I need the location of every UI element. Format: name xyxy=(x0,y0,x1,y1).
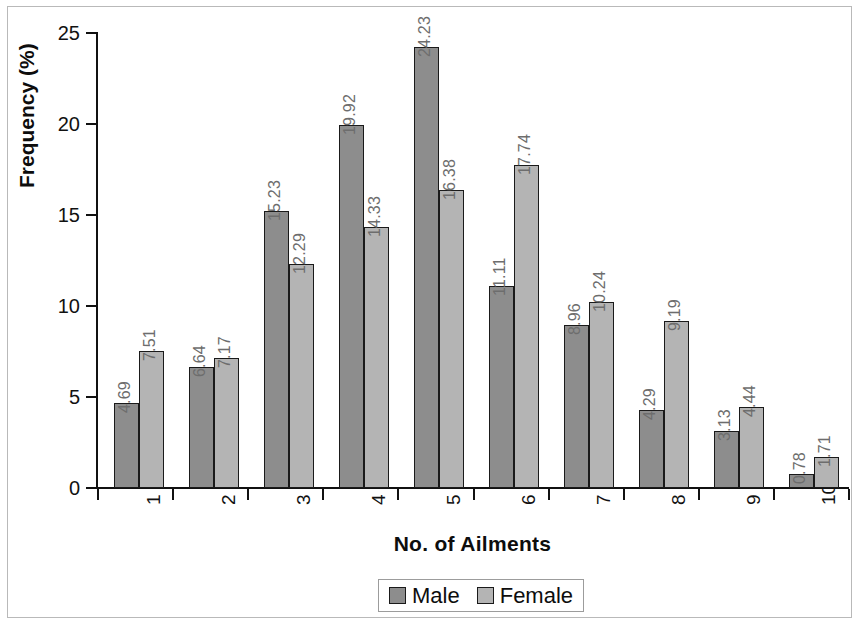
x-axis-tick xyxy=(548,489,550,500)
bar-female-1 xyxy=(139,351,164,488)
bar-value-label: 12.29 xyxy=(292,233,308,274)
bar-male-3 xyxy=(264,211,289,488)
x-axis-tick-label: 3 xyxy=(294,494,313,505)
x-axis-tick-label: 7 xyxy=(594,494,613,505)
bar-value-label: 7.51 xyxy=(142,329,158,361)
legend-swatch-male xyxy=(389,587,406,604)
x-axis-tick xyxy=(473,489,475,500)
bar-value-label: 8.96 xyxy=(567,303,583,335)
y-axis-tick-label: 0 xyxy=(20,478,80,498)
plot-area: 4.697.516.647.1715.2312.2919.9214.3324.2… xyxy=(97,33,848,488)
bar-female-9 xyxy=(739,407,764,488)
x-axis-tick xyxy=(97,489,99,500)
x-axis-tick xyxy=(172,489,174,500)
legend-label: Male xyxy=(412,585,460,607)
y-axis-tick-label: 5 xyxy=(20,387,80,407)
bar-value-label: 1.71 xyxy=(817,435,833,467)
y-axis-tick xyxy=(86,487,97,489)
bar-value-label: 3.13 xyxy=(717,409,733,441)
bar-value-label: 16.38 xyxy=(442,159,458,200)
bar-value-label: 14.33 xyxy=(367,196,383,237)
bar-value-label: 15.23 xyxy=(267,180,283,221)
bar-value-label: 19.92 xyxy=(342,94,358,135)
y-axis-tick xyxy=(86,123,97,125)
bar-male-5 xyxy=(414,47,439,488)
bar-value-label: 17.74 xyxy=(517,134,533,175)
bar-male-7 xyxy=(564,325,589,488)
y-axis-tick xyxy=(86,32,97,34)
bar-female-4 xyxy=(364,227,389,488)
bar-chart-figure: Frequency (%) No. of Ailments 0510152025… xyxy=(0,0,859,626)
x-axis-tick xyxy=(698,489,700,500)
y-axis-tick-label: 10 xyxy=(20,296,80,316)
bar-male-4 xyxy=(339,125,364,488)
bar-male-2 xyxy=(189,367,214,488)
y-axis-tick xyxy=(86,305,97,307)
bar-female-7 xyxy=(589,302,614,488)
x-axis-tick-label: 1 xyxy=(144,494,163,505)
x-axis-tick xyxy=(322,489,324,500)
bar-female-3 xyxy=(289,264,314,488)
y-axis-tick xyxy=(86,396,97,398)
legend-entry-female: Female xyxy=(477,585,573,607)
bar-male-8 xyxy=(639,410,664,488)
x-axis-tick xyxy=(397,489,399,500)
bar-value-label: 7.17 xyxy=(217,336,233,368)
bar-value-label: 9.19 xyxy=(667,299,683,331)
bar-value-label: 4.29 xyxy=(642,388,658,420)
chart-legend: MaleFemale xyxy=(378,579,584,612)
bar-value-label: 4.69 xyxy=(117,381,133,413)
bar-male-6 xyxy=(489,286,514,488)
y-axis-tick-label: 15 xyxy=(20,205,80,225)
x-axis-tick-label: 6 xyxy=(519,494,538,505)
x-axis-tick xyxy=(247,489,249,500)
bar-female-8 xyxy=(664,321,689,488)
x-axis-tick-label: 5 xyxy=(444,494,463,505)
bar-value-label: 0.78 xyxy=(792,452,808,484)
legend-label: Female xyxy=(500,585,573,607)
x-axis-title: No. of Ailments xyxy=(97,533,848,554)
legend-swatch-female xyxy=(477,587,494,604)
y-axis-tick xyxy=(86,214,97,216)
x-axis-tick-label: 2 xyxy=(219,494,238,505)
x-axis-tick xyxy=(623,489,625,500)
y-axis-tick-label: 20 xyxy=(20,114,80,134)
x-axis-tick-label: 9 xyxy=(744,494,763,505)
bar-value-label: 6.64 xyxy=(192,345,208,377)
bar-female-5 xyxy=(439,190,464,488)
bar-value-label: 4.44 xyxy=(742,385,758,417)
bar-value-label: 11.11 xyxy=(492,257,508,296)
bar-female-2 xyxy=(214,358,239,488)
bar-male-1 xyxy=(114,403,139,488)
x-axis-tick xyxy=(848,489,850,500)
bar-female-6 xyxy=(514,165,539,488)
x-axis-tick-label: 4 xyxy=(369,494,388,505)
y-axis-tick-label: 25 xyxy=(20,23,80,43)
legend-entry-male: Male xyxy=(389,585,460,607)
bar-value-label: 24.23 xyxy=(417,16,433,57)
x-axis-tick-label: 8 xyxy=(669,494,688,505)
x-axis-tick xyxy=(773,489,775,500)
bar-value-label: 10.24 xyxy=(592,271,608,312)
